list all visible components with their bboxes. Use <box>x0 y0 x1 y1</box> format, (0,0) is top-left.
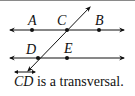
label-B: B <box>95 13 104 28</box>
double-arrow-icon <box>14 69 36 75</box>
line-notation: CD <box>14 74 33 90</box>
point-E <box>65 56 69 60</box>
point-B <box>97 28 101 32</box>
label-A: A <box>27 13 37 28</box>
point-A <box>30 28 34 32</box>
line-name: CD <box>14 74 33 89</box>
label-E: E <box>63 41 73 56</box>
point-D <box>36 56 40 60</box>
label-D: D <box>25 42 36 57</box>
label-C: C <box>57 13 67 28</box>
caption-text: is a transversal. <box>33 74 123 89</box>
point-C <box>65 28 69 32</box>
caption: CD is a transversal. <box>14 74 124 90</box>
transversal-diagram: A C B D E <box>0 0 135 76</box>
